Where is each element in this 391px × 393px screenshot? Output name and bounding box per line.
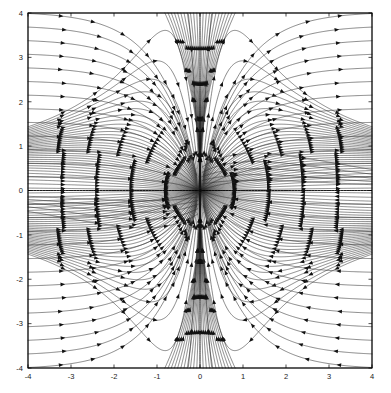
streamline-arrow bbox=[228, 120, 232, 125]
streamline-arrow bbox=[299, 35, 304, 39]
streamline-arrow bbox=[300, 194, 305, 198]
streamline-arrow bbox=[270, 123, 275, 127]
x-tick-label: 3 bbox=[327, 372, 331, 381]
streamline-arrow bbox=[87, 117, 92, 121]
x-tick-label: -4 bbox=[25, 372, 32, 381]
streamline-arrow bbox=[155, 137, 160, 141]
streamline-arrow bbox=[127, 123, 132, 127]
streamline-arrow bbox=[304, 59, 309, 63]
streamline-arrow bbox=[226, 115, 230, 120]
streamline-arrow bbox=[130, 281, 135, 285]
streamline-arrow bbox=[169, 261, 173, 266]
streamline-arrow bbox=[337, 310, 342, 314]
streamline-arrow bbox=[297, 224, 302, 228]
streamline-arrow bbox=[279, 140, 284, 144]
streamline bbox=[28, 206, 197, 367]
streamline-arrow bbox=[165, 213, 170, 217]
streamline-arrow bbox=[270, 251, 275, 255]
streamline-arrow bbox=[336, 41, 341, 45]
streamline-arrow bbox=[91, 247, 96, 251]
streamline-arrow bbox=[156, 253, 161, 257]
streamline-arrow bbox=[59, 363, 64, 367]
streamline-arrow bbox=[335, 198, 340, 202]
streamline-arrow bbox=[93, 125, 98, 129]
streamline-arrow bbox=[337, 108, 342, 112]
streamline-arrow bbox=[303, 249, 308, 253]
y-tick-label: 2 bbox=[19, 98, 23, 107]
streamline-arrow bbox=[121, 240, 126, 244]
streamline-arrow bbox=[91, 108, 96, 112]
streamline bbox=[203, 198, 372, 272]
streamline-arrow bbox=[155, 239, 160, 243]
streamline-arrow bbox=[97, 34, 102, 38]
streamline-arrow bbox=[90, 244, 95, 248]
streamline-arrow bbox=[263, 223, 268, 227]
streamline-arrow bbox=[98, 224, 103, 228]
phase-portrait-plot: -4-3-2-101234-4-3-2-101234 bbox=[0, 0, 391, 393]
streamline-arrow bbox=[62, 81, 67, 85]
streamline-arrow bbox=[89, 71, 94, 75]
streamplot-figure: -4-3-2-101234-4-3-2-101234 bbox=[0, 0, 391, 393]
streamline-arrow bbox=[266, 113, 271, 117]
streamline-arrow bbox=[95, 194, 100, 198]
streamline-arrow bbox=[337, 363, 342, 367]
streamline-arrow bbox=[120, 32, 125, 36]
x-tick-label: 0 bbox=[198, 372, 202, 381]
streamline-arrow bbox=[336, 95, 341, 99]
streamline-arrow bbox=[336, 269, 341, 273]
streamline-arrow bbox=[333, 350, 338, 354]
streamline-arrow bbox=[212, 299, 216, 304]
streamline-arrow bbox=[92, 267, 97, 271]
streamline-arrow bbox=[306, 306, 311, 310]
streamline-arrow bbox=[221, 294, 225, 299]
streamline-arrow bbox=[185, 259, 189, 264]
streamline-arrow bbox=[298, 343, 303, 347]
streamline-arrow bbox=[269, 318, 274, 322]
streamline-arrow bbox=[304, 247, 309, 251]
streamline-arrow bbox=[238, 135, 243, 139]
y-tick-label: 0 bbox=[19, 186, 23, 195]
streamline-arrow bbox=[301, 256, 306, 260]
streamline-arrow bbox=[185, 117, 189, 122]
streamline-arrow bbox=[165, 164, 170, 168]
streamline-arrow bbox=[271, 260, 276, 264]
streamline-arrow bbox=[274, 240, 279, 244]
streamline-arrow bbox=[62, 296, 67, 300]
streamline-arrow bbox=[189, 262, 193, 267]
streamline-arrow bbox=[129, 49, 134, 53]
streamline-arrow bbox=[225, 245, 229, 250]
streamline-arrow bbox=[249, 148, 254, 152]
streamline-arrow bbox=[130, 96, 135, 100]
streamline-arrow bbox=[274, 134, 279, 138]
streamline-arrow bbox=[90, 133, 95, 137]
streamline-arrow bbox=[302, 47, 307, 51]
streamline-arrow bbox=[95, 118, 100, 122]
streamline-arrow bbox=[58, 68, 63, 72]
streamline-arrow bbox=[61, 336, 66, 340]
streamline-arrow bbox=[238, 94, 243, 98]
streamline-arrow bbox=[154, 74, 158, 79]
streamline-arrow bbox=[125, 251, 130, 255]
streamline-arrow bbox=[236, 246, 241, 250]
x-tick-label: -2 bbox=[111, 372, 118, 381]
streamline-arrow bbox=[240, 138, 245, 142]
streamline-arrow bbox=[127, 255, 132, 259]
streamline-arrow bbox=[122, 134, 127, 138]
streamline bbox=[28, 13, 197, 174]
streamline-arrow bbox=[230, 213, 235, 217]
streamline-arrow bbox=[59, 269, 64, 273]
streamline-arrow bbox=[93, 92, 98, 96]
streamline-arrow bbox=[87, 261, 92, 265]
streamline-arrow bbox=[153, 246, 158, 250]
streamline-arrow bbox=[305, 127, 310, 131]
streamline-arrow bbox=[301, 117, 306, 121]
streamline-arrow bbox=[307, 72, 312, 76]
streamline-arrow bbox=[169, 115, 173, 120]
streamline-arrow bbox=[62, 28, 67, 32]
streamline-arrow bbox=[164, 225, 169, 229]
streamline-arrow bbox=[98, 153, 103, 157]
streamline-arrow bbox=[92, 319, 97, 323]
streamline-arrow bbox=[335, 283, 340, 287]
streamline-arrow bbox=[265, 281, 270, 285]
streamline-arrow bbox=[126, 59, 131, 63]
